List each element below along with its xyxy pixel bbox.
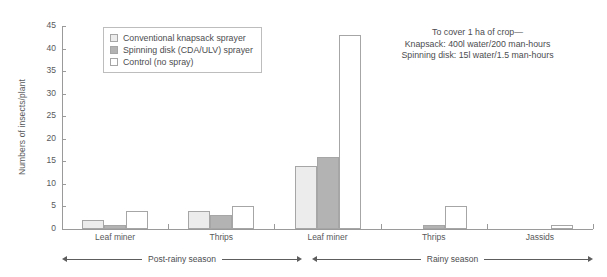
bar-chart: Numbers of insects/plant 051015202530354… xyxy=(0,0,607,277)
season-label: Rainy season xyxy=(421,254,485,264)
bar xyxy=(188,211,210,229)
category-label: Jassids xyxy=(490,232,590,242)
annotation-line-3: Spinning disk: 15l water/1.5 man-hours xyxy=(370,50,585,62)
x-axis-tick xyxy=(487,224,488,229)
season-line xyxy=(222,259,297,260)
y-axis-tick-label: 45 xyxy=(30,21,56,30)
y-axis-line xyxy=(62,26,63,229)
bar xyxy=(317,157,339,229)
y-axis-tick-label: 35 xyxy=(30,66,56,75)
y-axis-tick xyxy=(62,161,66,162)
bar xyxy=(339,35,361,229)
bar xyxy=(82,220,104,229)
legend-swatch-icon xyxy=(110,58,118,66)
legend-item-label: Control (no spray) xyxy=(123,57,193,68)
bar xyxy=(210,215,232,229)
x-axis-tick xyxy=(274,224,275,229)
arrow-right-icon xyxy=(297,256,302,262)
y-axis-tick xyxy=(62,206,66,207)
bar xyxy=(104,225,126,230)
legend-item-control-no-spray: Control (no spray) xyxy=(110,56,253,68)
y-axis-title: Numbers of insects/plant xyxy=(17,27,27,227)
annotation-note: To cover 1 ha of crop— Knapsack: 400l wa… xyxy=(370,27,585,62)
x-axis-line xyxy=(62,229,593,230)
y-axis-tick-label: 20 xyxy=(30,134,56,143)
y-axis-tick-label: 30 xyxy=(30,89,56,98)
bar xyxy=(295,166,317,229)
legend-item-conventional-knapsack-sprayer: Conventional knapsack sprayer xyxy=(110,32,253,44)
bar xyxy=(126,211,148,229)
y-axis-tick xyxy=(62,26,66,27)
y-axis-tick xyxy=(62,71,66,72)
season-label: Post-rainy season xyxy=(142,254,222,264)
season-band-rainy: Rainy season xyxy=(312,253,593,265)
y-axis-tick-label: 40 xyxy=(30,44,56,53)
y-axis-tick-label: 5 xyxy=(30,201,56,210)
legend: Conventional knapsack sprayer Spinning d… xyxy=(103,27,262,73)
y-axis-tick xyxy=(62,49,66,50)
category-label: Leaf miner xyxy=(278,232,378,242)
y-axis-tick-label: 15 xyxy=(30,156,56,165)
annotation-line-1: To cover 1 ha of crop— xyxy=(370,27,585,39)
category-label: Thrips xyxy=(384,232,484,242)
legend-item-spinning-disk-sprayer: Spinning disk (CDA/ULV) sprayer xyxy=(110,44,253,56)
category-label: Leaf miner xyxy=(65,232,165,242)
legend-swatch-icon xyxy=(110,46,118,54)
category-label: Thrips xyxy=(171,232,271,242)
y-axis-tick-label: 25 xyxy=(30,111,56,120)
season-line xyxy=(67,259,142,260)
y-axis-tick-label: 10 xyxy=(30,179,56,188)
bar xyxy=(232,206,254,229)
season-line xyxy=(484,259,588,260)
legend-item-label: Spinning disk (CDA/ULV) sprayer xyxy=(123,45,253,56)
annotation-line-2: Knapsack: 400l water/200 man-hours xyxy=(370,39,585,51)
legend-item-label: Conventional knapsack sprayer xyxy=(123,33,246,44)
x-axis-tick xyxy=(168,224,169,229)
x-axis-tick xyxy=(593,224,594,229)
y-axis-tick-label: 0 xyxy=(30,224,56,233)
y-axis-tick xyxy=(62,184,66,185)
y-axis-tick xyxy=(62,116,66,117)
bar xyxy=(551,225,573,230)
x-axis-tick xyxy=(62,224,63,229)
arrow-right-icon xyxy=(588,256,593,262)
season-band-post-rainy: Post-rainy season xyxy=(62,253,302,265)
y-axis-tick xyxy=(62,94,66,95)
bar xyxy=(445,206,467,229)
y-axis-tick xyxy=(62,139,66,140)
x-axis-tick xyxy=(381,224,382,229)
legend-swatch-icon xyxy=(110,34,118,42)
bar xyxy=(423,225,445,230)
season-line xyxy=(317,259,421,260)
